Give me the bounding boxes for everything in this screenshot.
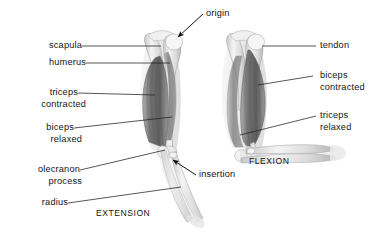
humeral-head-extension (166, 34, 183, 50)
humeral-head-flexion (248, 34, 265, 50)
label-insertion: insertion (199, 169, 235, 180)
label-tendon: tendon (320, 40, 349, 51)
label-biceps-contracted-line1: biceps (320, 70, 348, 81)
caption-extension: EXTENSION (96, 208, 150, 218)
label-scapula: scapula (8, 40, 82, 51)
leader-olecranon-process (80, 150, 165, 170)
radial-head-extension (169, 152, 177, 158)
label-olecranon-line1: olecranon (4, 164, 80, 175)
extension-arm-figure (141, 31, 205, 228)
leader-lines (68, 46, 316, 203)
radial-head-flexion (247, 148, 255, 154)
leader-radius (68, 187, 181, 203)
label-humerus: humerus (8, 57, 86, 68)
hand-flexion (330, 145, 346, 161)
label-origin: origin (206, 8, 230, 19)
label-biceps-contracted-line2: contracted (320, 82, 365, 93)
anatomy-diagram: scapula humerus triceps contracted bicep… (0, 0, 388, 237)
label-olecranon-line2: process (4, 176, 82, 187)
label-biceps-relaxed-line1: biceps (4, 122, 74, 133)
label-triceps-relaxed-line1: triceps (320, 110, 348, 121)
forearm-soft-tissue-extension (158, 148, 204, 224)
label-triceps-contracted-line2: contracted (4, 99, 86, 110)
label-radius: radius (4, 197, 68, 208)
arrow-origin (178, 14, 203, 37)
caption-flexion: FLEXION (249, 156, 289, 166)
label-biceps-relaxed-line2: relaxed (4, 134, 82, 145)
label-triceps-relaxed-line2: relaxed (320, 122, 351, 133)
label-triceps-contracted-line1: triceps (4, 87, 78, 98)
